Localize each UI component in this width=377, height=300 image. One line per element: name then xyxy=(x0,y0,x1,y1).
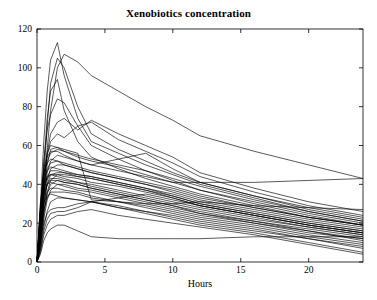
x-axis-tick-label: 5 xyxy=(103,265,108,275)
y-axis-tick-label: 40 xyxy=(23,180,33,190)
y-axis-tick-label: 20 xyxy=(23,219,33,229)
x-axis-tick-label: 0 xyxy=(35,265,40,275)
y-axis-tick-label: 120 xyxy=(18,24,33,34)
x-axis-tick-label: 10 xyxy=(168,265,178,275)
x-axis-tick-label: 15 xyxy=(236,265,246,275)
line-chart-plot: 05101520020406080100120 xyxy=(0,0,377,300)
y-axis-tick-label: 60 xyxy=(23,141,33,151)
x-axis-label: Hours xyxy=(37,278,363,289)
chart-title: Xenobiotics concentration xyxy=(0,7,377,19)
x-axis-tick-label: 20 xyxy=(304,265,314,275)
chart-figure: Xenobiotics concentration 05101520020406… xyxy=(0,0,377,300)
y-axis-tick-label: 0 xyxy=(27,257,32,267)
y-axis-tick-label: 100 xyxy=(18,63,33,73)
y-axis-tick-label: 80 xyxy=(23,102,33,112)
